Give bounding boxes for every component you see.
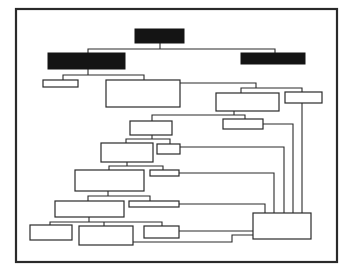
node-l3-box xyxy=(130,121,172,135)
node-l1-big xyxy=(106,80,180,107)
node-r2-box xyxy=(216,93,279,111)
edge-l4small-collector xyxy=(180,147,284,213)
node-l6-small xyxy=(129,201,179,207)
nodes xyxy=(30,29,322,245)
org-chart-diagram xyxy=(0,0,355,271)
node-root xyxy=(135,29,184,43)
node-left-branch xyxy=(48,53,125,69)
node-l6-box xyxy=(55,201,124,217)
node-l4-small xyxy=(157,144,180,154)
edge-left-children xyxy=(63,75,144,80)
node-l1-small xyxy=(43,80,78,87)
node-right-branch xyxy=(241,53,305,64)
edge-l6small-collector xyxy=(179,204,265,213)
edge-l5small-collector xyxy=(179,173,274,213)
node-r2-small xyxy=(285,92,322,103)
node-l4-box xyxy=(101,143,153,162)
node-bottom-a xyxy=(30,225,72,240)
node-l5-small xyxy=(150,170,179,176)
edge-r3small-collector xyxy=(263,124,293,213)
node-l5-box xyxy=(75,170,144,191)
node-bottom-b xyxy=(79,226,133,245)
edge-big-to-right xyxy=(180,83,256,88)
edge-l4-children xyxy=(109,166,163,170)
edge-l5-children xyxy=(88,196,150,201)
edge-root-branches xyxy=(88,49,275,53)
node-collector xyxy=(253,213,311,239)
node-bottom-c xyxy=(144,226,179,238)
node-r3-small xyxy=(223,119,263,129)
